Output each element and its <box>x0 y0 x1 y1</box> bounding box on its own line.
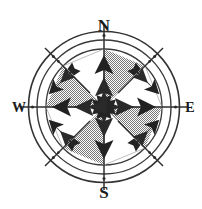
label-west: W <box>12 100 26 115</box>
compass-rose-graphic: N E S W <box>0 0 202 209</box>
tick-dot <box>153 156 156 159</box>
tick-dot-inner <box>148 151 151 154</box>
tick-dot <box>52 156 55 159</box>
tick-dot-inner <box>57 151 60 154</box>
tick-dot-inner <box>148 60 151 63</box>
compass-figure: N E S W <box>0 0 202 209</box>
label-south: S <box>99 183 108 202</box>
label-north: N <box>98 16 111 35</box>
tick-dot <box>31 106 34 109</box>
tick-dot <box>153 55 156 58</box>
tick-dot-inner <box>57 60 60 63</box>
label-east: E <box>185 100 194 115</box>
tick-dot <box>174 106 177 109</box>
tick-dot <box>52 55 55 58</box>
tick-dot <box>103 177 106 180</box>
